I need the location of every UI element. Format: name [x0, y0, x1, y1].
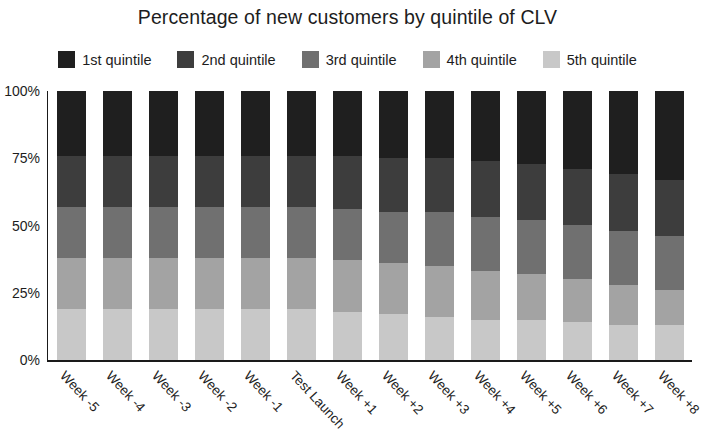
bar-segment[interactable] [517, 220, 546, 274]
bar-segment[interactable] [333, 91, 362, 156]
bar-segment[interactable] [609, 231, 638, 285]
bar-segment[interactable] [517, 91, 546, 164]
bar-segment[interactable] [563, 225, 592, 279]
bar-segment[interactable] [287, 309, 316, 360]
bar-segment[interactable] [195, 91, 224, 156]
bar-segment[interactable] [379, 212, 408, 263]
bar-segment[interactable] [655, 91, 684, 180]
stacked-bar[interactable] [379, 91, 408, 360]
bar-segment[interactable] [103, 258, 132, 309]
bar-segment[interactable] [287, 258, 316, 309]
bar-segment[interactable] [655, 180, 684, 236]
bar-segment[interactable] [149, 156, 178, 207]
stacked-bar[interactable] [195, 91, 224, 360]
stacked-bar[interactable] [609, 91, 638, 360]
bar-segment[interactable] [57, 156, 86, 207]
bar-segment[interactable] [333, 209, 362, 260]
stacked-bar[interactable] [103, 91, 132, 360]
stacked-bar[interactable] [655, 91, 684, 360]
bar-segment[interactable] [471, 161, 500, 217]
bar-segment[interactable] [57, 91, 86, 156]
stacked-bar[interactable] [241, 91, 270, 360]
bar-segment[interactable] [287, 91, 316, 156]
bar-segment[interactable] [425, 91, 454, 158]
stacked-bar[interactable] [517, 91, 546, 360]
bar-segment[interactable] [517, 164, 546, 220]
bar-segment[interactable] [149, 207, 178, 258]
bar-segment[interactable] [241, 91, 270, 156]
bar-segment[interactable] [241, 309, 270, 360]
bar-segment[interactable] [241, 258, 270, 309]
bar-segment[interactable] [563, 169, 592, 225]
bar-segment[interactable] [563, 91, 592, 169]
bar-column[interactable] [370, 91, 416, 360]
stacked-bar[interactable] [471, 91, 500, 360]
bar-segment[interactable] [149, 91, 178, 156]
stacked-bar[interactable] [333, 91, 362, 360]
bar-segment[interactable] [471, 217, 500, 271]
bar-column[interactable] [554, 91, 600, 360]
bar-segment[interactable] [379, 91, 408, 158]
bar-segment[interactable] [379, 158, 408, 212]
bar-segment[interactable] [425, 212, 454, 266]
bar-column[interactable] [646, 91, 692, 360]
bar-column[interactable] [416, 91, 462, 360]
bar-segment[interactable] [241, 207, 270, 258]
bar-column[interactable] [462, 91, 508, 360]
bar-segment[interactable] [333, 312, 362, 360]
bar-segment[interactable] [609, 91, 638, 174]
bar-segment[interactable] [57, 207, 86, 258]
bar-segment[interactable] [517, 320, 546, 360]
bar-segment[interactable] [195, 309, 224, 360]
bar-column[interactable] [140, 91, 186, 360]
bar-segment[interactable] [609, 285, 638, 325]
bar-segment[interactable] [655, 236, 684, 290]
bar-segment[interactable] [195, 258, 224, 309]
bar-segment[interactable] [563, 279, 592, 322]
bar-segment[interactable] [471, 271, 500, 319]
bar-segment[interactable] [425, 266, 454, 317]
bar-segment[interactable] [563, 322, 592, 360]
bar-segment[interactable] [57, 309, 86, 360]
bar-segment[interactable] [149, 309, 178, 360]
stacked-bar[interactable] [563, 91, 592, 360]
bar-segment[interactable] [103, 156, 132, 207]
bar-segment[interactable] [471, 91, 500, 161]
bar-segment[interactable] [241, 156, 270, 207]
bar-segment[interactable] [195, 156, 224, 207]
bar-segment[interactable] [103, 207, 132, 258]
bar-segment[interactable] [57, 258, 86, 309]
bar-segment[interactable] [609, 325, 638, 360]
bar-segment[interactable] [195, 207, 224, 258]
bar-segment[interactable] [379, 263, 408, 314]
bar-segment[interactable] [471, 320, 500, 360]
bar-segment[interactable] [103, 91, 132, 156]
bar-segment[interactable] [149, 258, 178, 309]
bar-column[interactable] [186, 91, 232, 360]
bar-segment[interactable] [425, 317, 454, 360]
bar-column[interactable] [278, 91, 324, 360]
stacked-bar[interactable] [57, 91, 86, 360]
bar-segment[interactable] [287, 156, 316, 207]
stacked-bar[interactable] [287, 91, 316, 360]
bar-segment[interactable] [287, 207, 316, 258]
bar-segment[interactable] [425, 158, 454, 212]
bar-segment[interactable] [655, 290, 684, 325]
bar-segment[interactable] [517, 274, 546, 320]
bar-column[interactable] [48, 91, 94, 360]
bar-column[interactable] [508, 91, 554, 360]
bar-segment[interactable] [379, 314, 408, 360]
bar-column[interactable] [600, 91, 646, 360]
bar-segment[interactable] [103, 309, 132, 360]
x-axis-tick: Week +7 [599, 364, 645, 441]
bar-segment[interactable] [655, 325, 684, 360]
bar-column[interactable] [324, 91, 370, 360]
bar-segment[interactable] [609, 174, 638, 230]
bar-segment[interactable] [333, 260, 362, 311]
x-axis-tick: Week +1 [323, 364, 369, 441]
stacked-bar[interactable] [149, 91, 178, 360]
stacked-bar[interactable] [425, 91, 454, 360]
bar-column[interactable] [232, 91, 278, 360]
bar-segment[interactable] [333, 156, 362, 210]
bar-column[interactable] [94, 91, 140, 360]
